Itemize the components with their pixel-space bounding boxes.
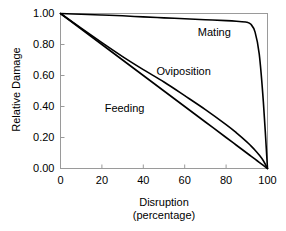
x-tick-label: 60 <box>170 175 200 186</box>
y-tick-label: 0.20 <box>23 132 55 143</box>
y-tick-label: 0.80 <box>23 39 55 50</box>
y-tick-label: 0.40 <box>23 101 55 112</box>
y-tick-label: 0.00 <box>23 163 55 174</box>
y-tick-label: 0.60 <box>23 70 55 81</box>
x-tick-label: 0 <box>46 175 76 186</box>
y-axis-title: Relative Damage <box>11 30 22 150</box>
x-tick-label: 20 <box>87 175 117 186</box>
x-tick-label: 80 <box>211 175 241 186</box>
x-tick-label: 40 <box>128 175 158 186</box>
chart-figure: 0.000.200.400.600.801.00 020406080100 Ma… <box>0 0 286 231</box>
x-tick-label: 100 <box>253 175 283 186</box>
curve-label-feeding: Feeding <box>105 103 145 114</box>
curve-label-mating: Mating <box>198 27 231 38</box>
x-axis-title-line2: (percentage) <box>60 209 268 221</box>
y-tick-label: 1.00 <box>23 8 55 19</box>
x-axis-title: Disruption <box>60 196 268 208</box>
curve-label-oviposition: Oviposition <box>156 66 210 77</box>
